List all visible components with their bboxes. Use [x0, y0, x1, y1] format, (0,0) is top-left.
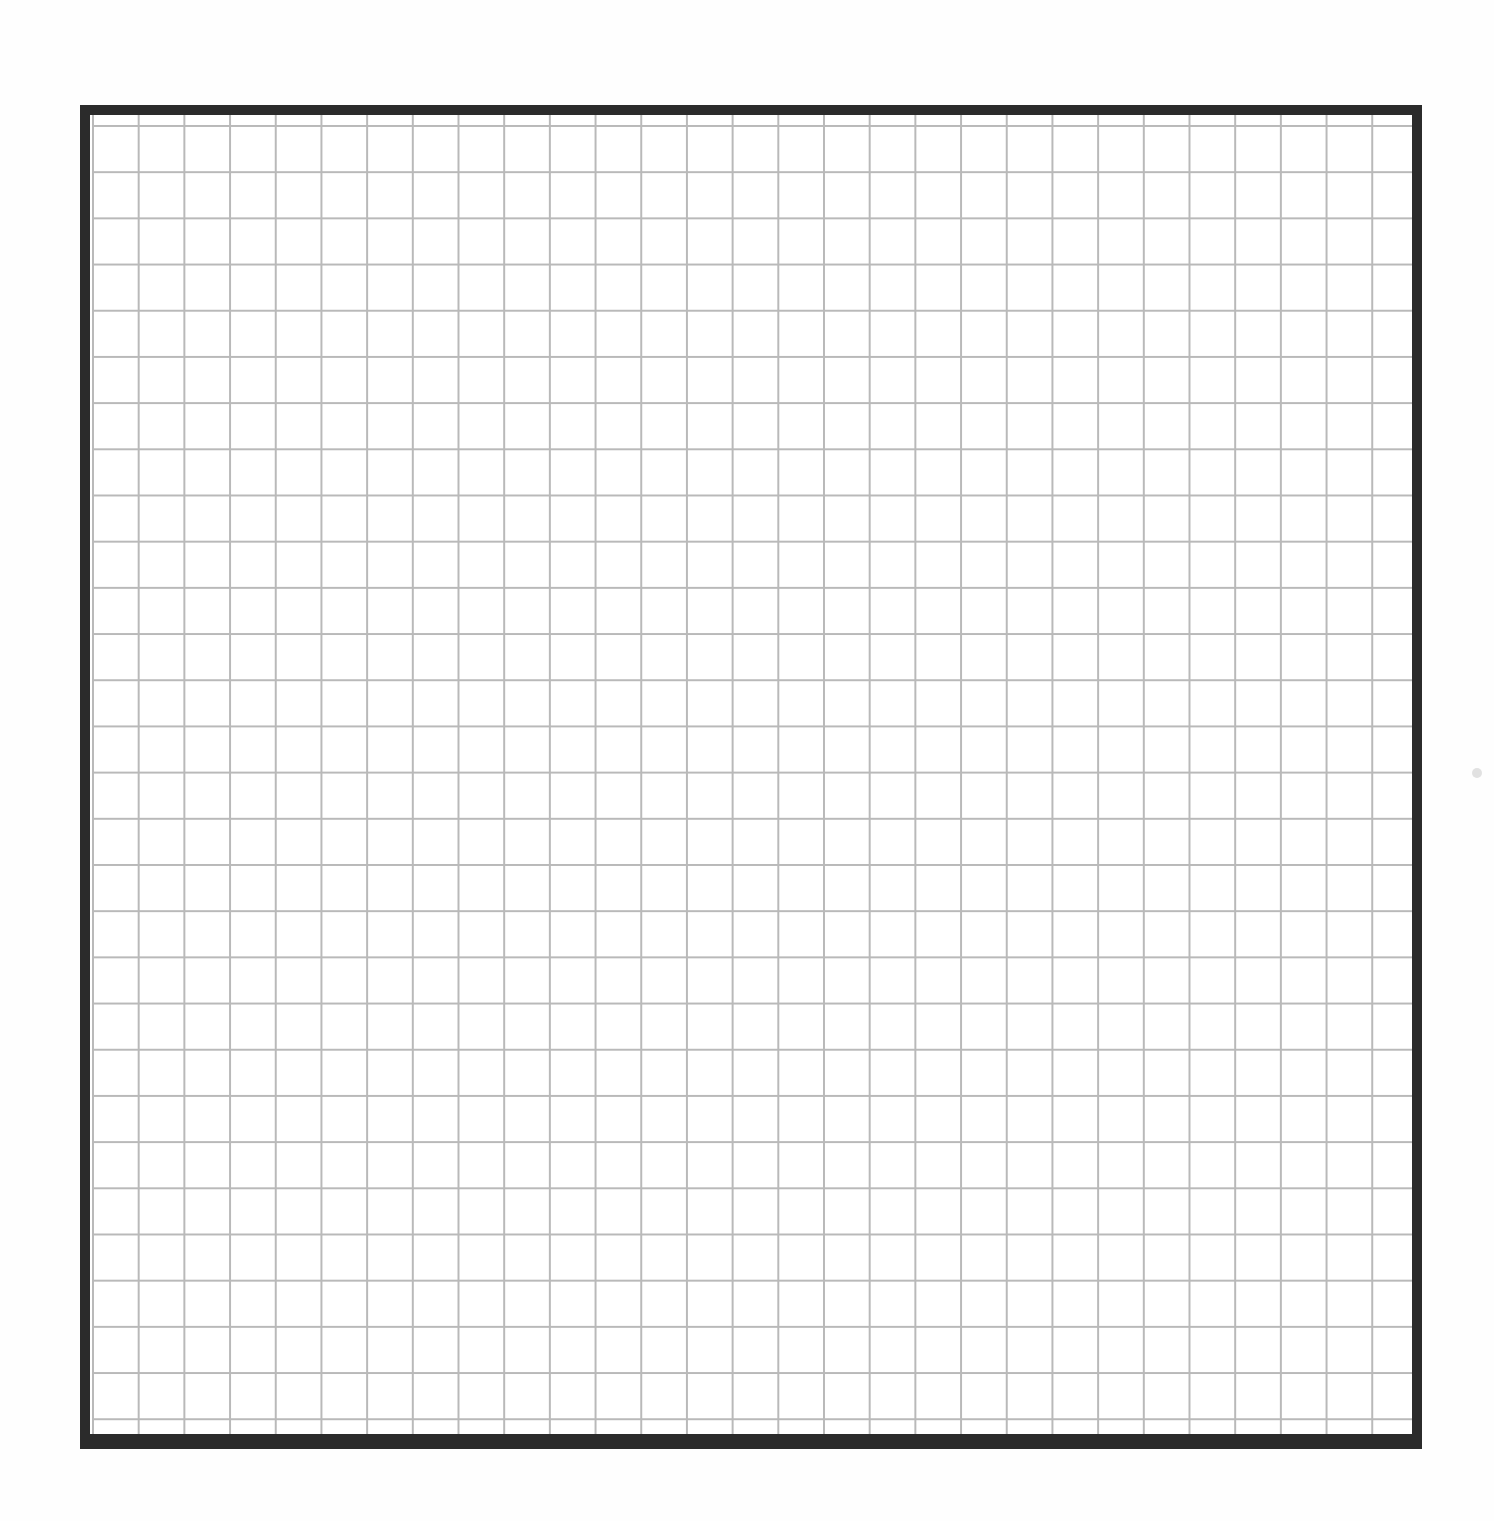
square-grid — [92, 115, 1412, 1434]
graph-paper-page — [0, 0, 1494, 1521]
scan-artifact-dot-icon — [1472, 768, 1482, 778]
grid-frame-border — [80, 105, 1422, 1449]
